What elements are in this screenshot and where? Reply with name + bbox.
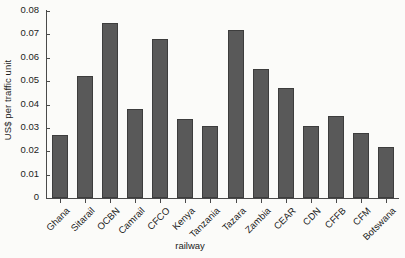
y-axis-title: US$ per traffic unit	[2, 0, 16, 200]
x-axis-tick-mark	[236, 199, 237, 203]
x-axis-tick-mark	[185, 199, 186, 203]
x-axis-tick-mark	[210, 199, 211, 203]
bar	[102, 23, 118, 198]
x-axis-tick-mark	[336, 199, 337, 203]
x-axis-tick-mark	[60, 199, 61, 203]
y-axis-tick: 0.02	[0, 151, 47, 152]
x-axis-tick-mark	[135, 199, 136, 203]
bar	[152, 39, 168, 198]
x-axis-tick-mark	[286, 199, 287, 203]
bar	[127, 109, 143, 198]
y-axis-tick: 0.03	[0, 128, 47, 129]
x-axis-tick-mark	[85, 199, 86, 203]
bar	[202, 126, 218, 198]
bar	[278, 88, 294, 198]
y-axis-tick: 0	[0, 198, 47, 199]
chart-screenshot: US$ per traffic unit 00.010.020.030.040.…	[0, 0, 405, 258]
y-axis-tick-label: 0.04	[21, 98, 40, 109]
bar	[353, 133, 369, 198]
y-axis-tick: 0.06	[0, 58, 47, 59]
bar	[52, 135, 68, 198]
bar	[177, 119, 193, 198]
x-axis-tick-mark	[160, 199, 161, 203]
y-axis-tick-label: 0.01	[21, 168, 40, 179]
y-axis-tick-label: 0.02	[21, 144, 40, 155]
y-axis-tick-mark	[46, 198, 50, 199]
y-axis-tick: 0.04	[0, 105, 47, 106]
y-axis-tick: 0.01	[0, 175, 47, 176]
x-axis-line	[46, 198, 399, 199]
bar	[228, 30, 244, 198]
y-axis-tick-label: 0.08	[21, 4, 40, 15]
plot-area	[47, 11, 399, 198]
x-axis-tick-mark	[386, 199, 387, 203]
y-axis-tick-label: 0.07	[21, 27, 40, 38]
x-axis-tick-mark	[261, 199, 262, 203]
x-axis-tick-mark	[110, 199, 111, 203]
y-axis-tick: 0.08	[0, 11, 47, 12]
y-axis-tick-label: 0.03	[21, 121, 40, 132]
y-axis-tick-label: 0	[34, 191, 39, 202]
bar	[77, 76, 93, 198]
x-axis-tick-mark	[311, 199, 312, 203]
y-axis-tick: 0.05	[0, 81, 47, 82]
bar	[253, 69, 269, 198]
x-axis-title: railway	[150, 240, 230, 251]
bar	[328, 116, 344, 198]
x-axis-tick-mark	[361, 199, 362, 203]
y-axis-tick-label: 0.06	[21, 51, 40, 62]
y-axis-tick: 0.07	[0, 34, 47, 35]
y-axis-tick-label: 0.05	[21, 74, 40, 85]
bar	[303, 126, 319, 198]
bar	[378, 147, 394, 198]
